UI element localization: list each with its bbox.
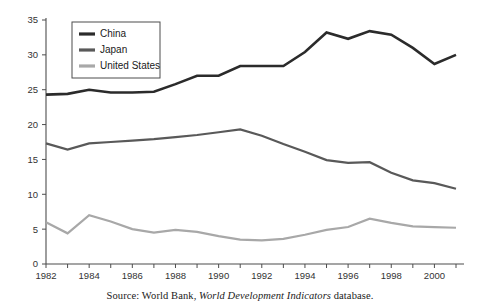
series-line-japan	[46, 129, 456, 188]
x-tick-label: 1994	[294, 270, 315, 281]
y-tick-label: 5	[33, 224, 38, 235]
chart-legend: ChinaJapanUnited States	[72, 22, 160, 78]
y-tick-label: 10	[27, 189, 38, 200]
y-axis-ticks: 05101520253035	[27, 14, 46, 269]
x-tick-label: 1998	[381, 270, 402, 281]
series-line-united-states	[46, 215, 456, 240]
x-axis-ticks: 1982198419861988199019921994199619982000	[35, 264, 456, 281]
x-tick-label: 1990	[208, 270, 229, 281]
x-tick-label: 1986	[122, 270, 143, 281]
legend-label-united-states: United States	[100, 60, 160, 71]
chart-container: 05101520253035 1982198419861988199019921…	[0, 0, 480, 307]
source-prefix: Source: World Bank,	[107, 290, 200, 301]
y-tick-label: 30	[27, 49, 38, 60]
x-tick-label: 2000	[424, 270, 445, 281]
y-tick-label: 25	[27, 84, 38, 95]
x-tick-label: 1992	[251, 270, 272, 281]
line-chart: 05101520253035 1982198419861988199019921…	[0, 0, 480, 307]
legend-label-china: China	[100, 28, 127, 39]
source-suffix: database.	[331, 290, 373, 301]
y-tick-label: 0	[33, 258, 38, 269]
source-note: Source: World Bank, World Development In…	[0, 290, 480, 301]
x-tick-label: 1988	[165, 270, 186, 281]
x-tick-label: 1982	[35, 270, 56, 281]
x-tick-label: 1984	[79, 270, 100, 281]
y-tick-label: 20	[27, 119, 38, 130]
x-tick-label: 1996	[338, 270, 359, 281]
source-italic-title: World Development Indicators	[199, 290, 331, 301]
y-tick-label: 35	[27, 14, 38, 25]
legend-label-japan: Japan	[100, 44, 127, 55]
y-tick-label: 15	[27, 154, 38, 165]
